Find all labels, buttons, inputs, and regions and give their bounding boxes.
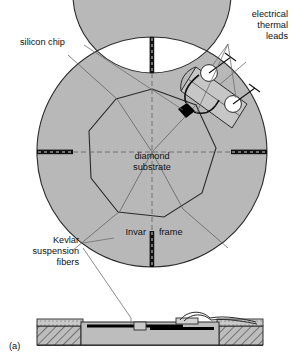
- label-diamond-line1: diamond: [134, 151, 169, 161]
- ring-gap-top: [150, 37, 155, 73]
- figure-panel-a: silicon chip electrical thermal leads di…: [0, 0, 292, 356]
- ring-gap-left: [37, 150, 73, 155]
- top-plate-left: [37, 319, 83, 326]
- ring-gap-right: [231, 150, 267, 155]
- chip-mount-notch: [134, 322, 146, 330]
- support-block-right: [219, 326, 263, 345]
- label-electrical-line3: leads: [266, 31, 288, 41]
- label-silicon-chip: silicon chip: [20, 37, 65, 47]
- label-electrical-line1: electrical: [252, 9, 288, 19]
- label-kevlar-line2: suspension: [33, 246, 79, 256]
- label-invar: Invar: [126, 227, 146, 237]
- label-kevlar-line3: fibers: [57, 257, 80, 267]
- label-frame: frame: [159, 227, 183, 237]
- panel-label: (a): [9, 341, 20, 351]
- label-kevlar-line1: Kevlar: [53, 235, 79, 245]
- label-electrical-line2: thermal: [257, 20, 288, 30]
- technical-diagram-svg: silicon chip electrical thermal leads di…: [0, 0, 292, 356]
- ring-gap-bottom: [150, 231, 155, 267]
- label-diamond-line2: substrate: [133, 162, 171, 172]
- support-block-left: [37, 326, 81, 345]
- cross-section-view: [37, 312, 263, 345]
- film-layer-right: [150, 327, 214, 330]
